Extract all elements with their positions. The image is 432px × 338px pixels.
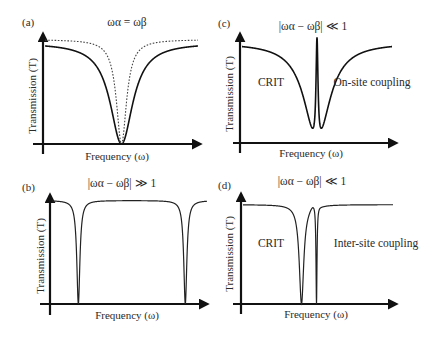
- solid-curve: [52, 201, 207, 304]
- panel-label: (d): [218, 179, 231, 192]
- panel-label: (a): [22, 16, 35, 29]
- y-axis-label: Transmission (T): [223, 216, 236, 292]
- dotted-curve: [45, 40, 198, 144]
- annotation-coupling: Inter-site coupling: [334, 237, 419, 250]
- annotation-crit: CRIT: [258, 76, 284, 88]
- x-axis-label: Frequency (ω): [284, 308, 348, 321]
- panel-title: |ωα − ωβ| ≪ 1: [279, 20, 348, 33]
- panel-title: ωα = ωβ: [107, 16, 146, 29]
- y-axis-label: Transmission (T): [26, 58, 39, 134]
- panel-label: (c): [218, 17, 231, 30]
- panel-a: (a) ωα = ωβ Frequency (ω) Transmission (…: [22, 16, 200, 163]
- panel-c: (c) |ωα − ωβ| ≪ 1 CRIT On-site coupling …: [218, 17, 411, 160]
- x-axis-label: Frequency (ω): [279, 147, 343, 160]
- solid-curve: [45, 46, 198, 144]
- panel-title: |ωα − ωβ| ≫ 1: [88, 177, 157, 190]
- annotation-crit: CRIT: [258, 237, 284, 249]
- x-axis-label: Frequency (ω): [95, 309, 159, 322]
- y-axis-label: Transmission (T): [223, 56, 236, 132]
- annotation-coupling: On-site coupling: [334, 76, 411, 89]
- panel-d: (d) |ωα − ωβ| ≪ 1 CRIT Inter-site coupli…: [218, 175, 418, 321]
- panel-label: (b): [22, 181, 35, 194]
- solid-curve: [243, 205, 393, 304]
- panel-b: (b) |ωα − ωβ| ≫ 1 Frequency (ω) Transmis…: [22, 177, 207, 322]
- x-axis-label: Frequency (ω): [85, 150, 149, 163]
- figure: (a) ωα = ωβ Frequency (ω) Transmission (…: [0, 0, 432, 338]
- panel-title: |ωα − ωβ| ≪ 1: [278, 175, 347, 188]
- y-axis-label: Transmission (T): [34, 218, 47, 294]
